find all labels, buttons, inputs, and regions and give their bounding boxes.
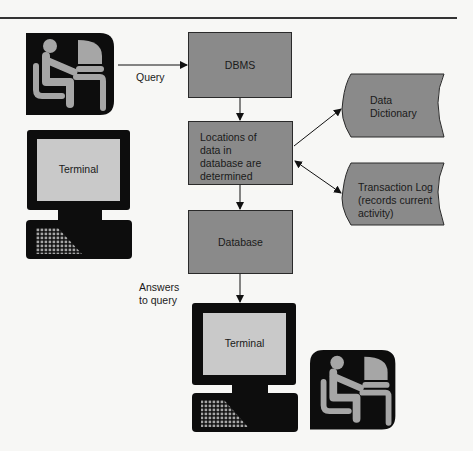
data-dictionary-line-2: Dictionary	[370, 107, 417, 120]
terminal-left-icon	[26, 130, 132, 259]
query-label: Query	[136, 71, 165, 84]
transaction-log-line-1: Transaction Log	[358, 181, 433, 194]
locations-box: Locations of data in database are determ…	[188, 121, 293, 185]
answers-line-2: to query	[139, 294, 179, 307]
user-at-computer-icon-bottom	[310, 350, 395, 430]
dbms-box: DBMS	[188, 32, 292, 98]
transaction-log-line-3: activity)	[358, 207, 433, 220]
terminal-left-label: Terminal	[37, 163, 120, 175]
dbms-label: DBMS	[225, 59, 255, 72]
answers-label: Answers to query	[139, 281, 179, 307]
user-at-computer-icon	[26, 33, 114, 115]
answers-line-1: Answers	[139, 281, 179, 294]
data-dictionary-line-1: Data	[370, 94, 417, 107]
locations-line-2: data in	[200, 144, 292, 157]
locations-line-3: database are	[200, 157, 292, 170]
database-box: Database	[188, 210, 293, 274]
terminal-bottom-label: Terminal	[203, 337, 286, 349]
transaction-log-label: Transaction Log (records current activit…	[358, 181, 433, 220]
to-data-dictionary-arrow	[294, 109, 341, 146]
database-label: Database	[218, 236, 263, 249]
transaction-log-arrow	[295, 161, 341, 193]
data-dictionary-label: Data Dictionary	[370, 94, 417, 120]
locations-line-4: determined	[200, 170, 292, 183]
terminal-bottom-icon	[192, 303, 298, 432]
transaction-log-line-2: (records current	[358, 194, 433, 207]
locations-line-1: Locations of	[200, 131, 292, 144]
